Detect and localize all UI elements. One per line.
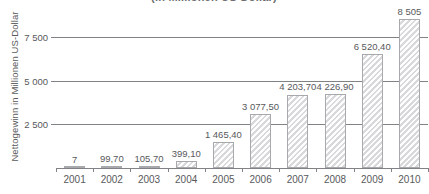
bar[interactable] xyxy=(250,114,271,168)
bar[interactable] xyxy=(399,19,420,168)
bar-value-label: 6 520,40 xyxy=(354,41,391,52)
x-axis-tick xyxy=(242,168,243,172)
bar[interactable] xyxy=(325,94,346,168)
x-axis-tick xyxy=(205,168,206,172)
x-axis-tick xyxy=(279,168,280,172)
bar[interactable] xyxy=(176,161,197,168)
y-axis-tick xyxy=(51,124,56,125)
x-axis-label: 2009 xyxy=(361,174,383,185)
x-axis-tick xyxy=(93,168,94,172)
x-axis-tick xyxy=(354,168,355,172)
bar-value-label: 1 465,40 xyxy=(205,129,242,140)
bar-value-label: 99,70 xyxy=(100,153,124,164)
x-axis-label: 2010 xyxy=(398,174,420,185)
bar[interactable] xyxy=(287,95,308,169)
x-axis-tick xyxy=(56,168,57,172)
bar-value-label: 7 xyxy=(72,154,77,165)
x-axis-tick xyxy=(130,168,131,172)
x-axis-tick xyxy=(391,168,392,172)
gridline xyxy=(56,37,428,38)
bar-value-label: 105,70 xyxy=(134,153,163,164)
chart-title: (in Millionen US-Dollar) xyxy=(0,0,428,3)
x-axis-tick xyxy=(168,168,169,172)
bar-value-label: 4 203,70 xyxy=(279,81,316,92)
x-axis-label: 2008 xyxy=(324,174,346,185)
x-axis-tick xyxy=(316,168,317,172)
x-axis-label: 2006 xyxy=(249,174,271,185)
plot-area: 2 5005 0007 500 799,70105,70399,101 465,… xyxy=(56,8,428,169)
y-axis-tick xyxy=(51,81,56,82)
y-axis-tick-label: 7 500 xyxy=(24,31,48,42)
y-axis-title: Nettogewinn in Millionen US-Dollar xyxy=(9,0,20,175)
x-axis-label: 2004 xyxy=(175,174,197,185)
y-axis-tick xyxy=(51,37,56,38)
bar[interactable] xyxy=(362,54,383,168)
y-axis-tick-label: 5 000 xyxy=(24,75,48,86)
x-axis-label: 2003 xyxy=(138,174,160,185)
bar-value-label: 4 226,90 xyxy=(317,81,354,92)
y-axis-tick-label: 2 500 xyxy=(24,119,48,130)
x-axis-label: 2001 xyxy=(63,174,85,185)
x-axis-label: 2002 xyxy=(101,174,123,185)
bar[interactable] xyxy=(213,142,234,168)
bar-value-label: 3 077,50 xyxy=(242,101,279,112)
x-axis-label: 2007 xyxy=(287,174,309,185)
bar-value-label: 399,10 xyxy=(172,148,201,159)
x-axis-label: 2005 xyxy=(212,174,234,185)
bar-value-label: 8 505 xyxy=(398,6,422,17)
